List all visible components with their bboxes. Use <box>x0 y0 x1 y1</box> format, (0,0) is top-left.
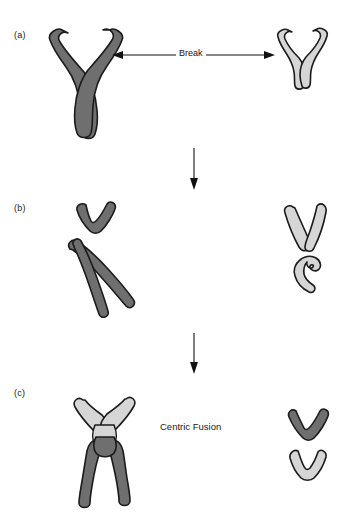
chromosome-diagram <box>0 0 343 519</box>
panel-label-c: (c) <box>14 388 25 398</box>
panel-label-b: (b) <box>14 203 26 213</box>
step-arrow-a-to-b <box>190 148 198 190</box>
figure-canvas: (a) (b) (c) Break Centric Fusion <box>0 0 343 519</box>
light-short-arm-fragment <box>294 256 320 292</box>
step-arrow-b-to-c <box>190 333 198 374</box>
centric-fusion-label: Centric Fusion <box>160 421 221 432</box>
dark-short-arm-fragment <box>77 202 115 233</box>
light-long-arm-fragment <box>285 204 327 251</box>
break-label: Break <box>176 48 206 58</box>
dark-short-arm-leftover <box>289 409 329 440</box>
light-short-arm-leftover <box>290 450 326 480</box>
light-chromosome-intact <box>278 28 328 89</box>
dark-chromosome-intact <box>49 29 122 138</box>
panel-label-a: (a) <box>14 30 26 40</box>
dark-long-arm-fragment <box>69 239 135 317</box>
fused-chromosome-dark-arms <box>79 437 130 508</box>
